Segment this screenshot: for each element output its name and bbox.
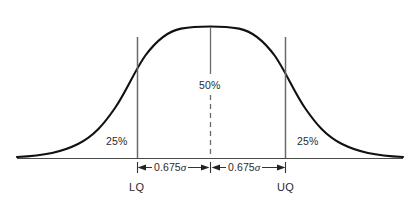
dimension-arrow-left-end <box>201 165 210 171</box>
upper-quartile-label: UQ <box>277 182 294 193</box>
dimension-left-value: 0.675 <box>154 161 181 173</box>
dimension-arrow-right-end <box>277 165 286 171</box>
sigma-symbol-right: σ <box>255 161 261 173</box>
dimension-right-value: 0.675 <box>228 161 255 173</box>
figure-canvas <box>0 0 417 202</box>
dimension-arrow-left-start <box>138 165 147 171</box>
center-percent-label: 50% <box>196 79 224 92</box>
normal-distribution-figure: 25% 50% 25% 0.675σ 0.675σ LQ UQ <box>0 0 417 202</box>
left-tail-percent-label: 25% <box>106 136 128 147</box>
right-tail-percent-label: 25% <box>297 136 319 147</box>
dimension-label-right: 0.675σ <box>226 162 262 173</box>
dimension-label-left: 0.675σ <box>152 162 188 173</box>
sigma-symbol-left: σ <box>181 161 187 173</box>
dimension-arrow-right-start <box>212 165 221 171</box>
lower-quartile-label: LQ <box>129 182 144 193</box>
